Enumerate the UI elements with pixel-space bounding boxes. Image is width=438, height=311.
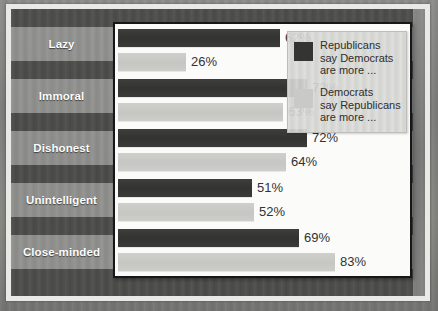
legend-swatch-republicans — [294, 42, 313, 61]
category-label: Lazy — [11, 38, 112, 50]
bar-democrats[interactable] — [118, 253, 335, 271]
category-label: Immoral — [11, 90, 112, 102]
legend-line: Republicans — [320, 39, 393, 52]
legend-line: say Democrats — [320, 52, 393, 65]
bar-value-label: 83% — [340, 253, 366, 271]
bar-republicans[interactable] — [118, 179, 252, 197]
bar-group-unintelligent: 51%52% — [115, 179, 410, 221]
bar-democrats[interactable] — [118, 203, 254, 221]
bar-democrats[interactable] — [118, 53, 186, 71]
bar-value-label: 26% — [191, 53, 217, 71]
category-label: Close-minded — [11, 246, 112, 258]
chart-panel: 62%26%72%63%72%64%51%52%69%83% Republica… — [113, 22, 412, 278]
bar-value-label: 69% — [304, 229, 330, 247]
legend-line: are more ... — [320, 64, 393, 77]
legend-line: say Republicans — [320, 99, 401, 112]
bar-democrats[interactable] — [118, 153, 286, 171]
bar-republicans[interactable] — [118, 129, 307, 147]
bar-value-label: 64% — [291, 153, 317, 171]
bar-group-close-minded: 69%83% — [115, 229, 410, 271]
category-label: Unintelligent — [11, 194, 112, 206]
bar-value-label: 51% — [257, 179, 283, 197]
bar-democrats[interactable] — [118, 103, 283, 121]
bar-value-label: 52% — [259, 203, 285, 221]
legend-line: are more ... — [320, 111, 401, 124]
bar-republicans[interactable] — [118, 29, 280, 47]
bar-group-dishonest: 72%64% — [115, 129, 410, 171]
category-label: Dishonest — [11, 142, 112, 154]
bar-republicans[interactable] — [118, 229, 299, 247]
chart-legend: Republicans say Democrats are more ... D… — [287, 31, 407, 133]
legend-label-republicans: Republicans say Democrats are more ... — [320, 39, 393, 77]
legend-label-democrats: Democrats say Republicans are more ... — [320, 86, 401, 124]
bar-republicans[interactable] — [118, 79, 307, 97]
chart-screenshot: LazyImmoralDishonestUnintelligentClose-m… — [0, 0, 438, 311]
legend-swatch-democrats — [294, 89, 313, 108]
legend-line: Democrats — [320, 86, 401, 99]
